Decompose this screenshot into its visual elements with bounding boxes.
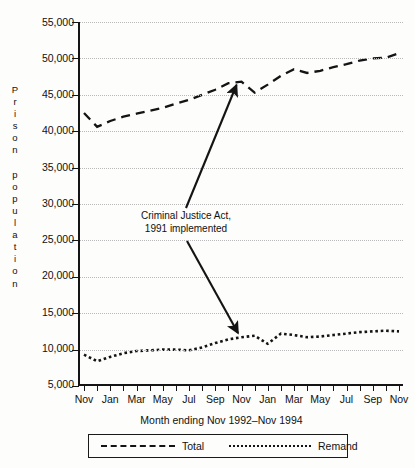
x-tick-mark [242, 384, 243, 391]
x-tick-mark [137, 384, 138, 391]
annotation-line-2: 1991 implemented [124, 222, 248, 235]
gridline [78, 313, 403, 314]
x-tick-mark [202, 384, 203, 391]
x-tick-mark [97, 384, 98, 391]
x-tick-mark [320, 384, 321, 391]
y-tick-mark [72, 386, 79, 387]
dotted-line-swatch-icon [229, 440, 311, 452]
x-tick-mark [255, 384, 256, 391]
x-axis-line [78, 384, 403, 386]
x-tick-mark [307, 384, 308, 391]
y-tick-label: 5,000 [22, 379, 74, 390]
annotation-text: Criminal Justice Act, 1991 implemented [124, 209, 248, 235]
series-line-remand [84, 331, 399, 362]
y-tick-label: 55,000 [22, 17, 74, 28]
x-tick-mark [110, 384, 111, 391]
x-tick-mark [281, 384, 282, 391]
series-line-total [84, 53, 399, 127]
y-tick-label: 15,000 [22, 307, 74, 318]
x-tick-mark [373, 384, 374, 391]
plot-area [78, 22, 403, 386]
x-tick-mark [347, 384, 348, 391]
gridline [78, 204, 403, 205]
gridline [78, 350, 403, 351]
y-tick-label: 45,000 [22, 89, 74, 100]
x-tick-mark [386, 384, 387, 391]
prison-population-chart: P r i s o n p o p u l a t i o n 55,000 5… [0, 0, 415, 468]
gridline [78, 95, 403, 96]
y-tick-label: 40,000 [22, 125, 74, 136]
legend: Total Remand [88, 434, 348, 458]
gridline [78, 131, 403, 132]
dashed-line-swatch-icon [101, 440, 175, 452]
x-tick-mark [176, 384, 177, 391]
x-tick-mark [84, 384, 85, 391]
gridline [78, 240, 403, 241]
gridline [78, 277, 403, 278]
y-tick-label: 35,000 [22, 162, 74, 173]
legend-item-remand[interactable]: Remand [229, 435, 358, 457]
x-tick-mark [215, 384, 216, 391]
gridline [78, 168, 403, 169]
x-tick-mark [360, 384, 361, 391]
x-tick-mark [268, 384, 269, 391]
x-tick-mark [163, 384, 164, 391]
x-tick-mark [189, 384, 190, 391]
y-tick-label: 10,000 [22, 343, 74, 354]
x-tick-mark [123, 384, 124, 391]
x-axis-title: Month ending Nov 1992–Nov 1994 [0, 414, 415, 426]
x-tick-mark [228, 384, 229, 391]
x-tick-mark [150, 384, 151, 391]
x-tick-mark [294, 384, 295, 391]
y-tick-label: 50,000 [22, 53, 74, 64]
y-tick-label: 30,000 [22, 198, 74, 209]
annotation-line-1: Criminal Justice Act, [124, 209, 248, 222]
x-tick-label: Nov [379, 393, 415, 405]
gridline [78, 22, 403, 23]
legend-label-remand: Remand [318, 440, 358, 452]
y-tick-label: 25,000 [22, 234, 74, 245]
y-tick-label: 20,000 [22, 270, 74, 281]
x-tick-mark [333, 384, 334, 391]
gridline [78, 58, 403, 59]
y-axis-line [78, 22, 80, 386]
legend-item-total[interactable]: Total [101, 435, 204, 457]
legend-label-total: Total [182, 440, 204, 452]
x-tick-mark [399, 384, 400, 391]
